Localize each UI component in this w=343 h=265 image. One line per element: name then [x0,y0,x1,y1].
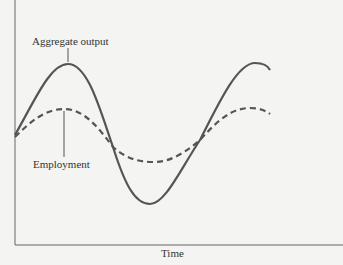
business-cycle-chart: Aggregate output Employment Time [0,0,343,265]
aggregate-output-label: Aggregate output [32,35,109,47]
aggregate-output-line [15,63,270,204]
employment-line [15,108,270,162]
employment-label: Employment [33,158,90,170]
x-axis-label: Time [161,247,184,259]
chart-canvas: Aggregate output Employment Time [0,0,343,265]
